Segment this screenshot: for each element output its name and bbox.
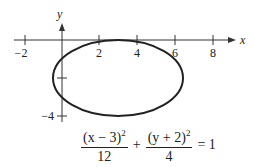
y-axis-label: y <box>56 7 63 21</box>
x-tick-label: 8 <box>210 46 216 60</box>
ellipse-graph: −2 2 4 6 8 −4 x y (x − 3)2 12 + (y + 2)2… <box>0 0 254 167</box>
x-axis-arrow-icon <box>228 37 236 43</box>
fraction-x: (x − 3)2 12 <box>81 125 128 165</box>
y-axis-arrow-icon <box>59 23 65 31</box>
x-tick-label: 4 <box>134 46 140 60</box>
fraction-y: (y + 2)2 4 <box>146 125 193 165</box>
x-tick-label: −2 <box>15 46 28 60</box>
ellipse-curve <box>53 40 183 116</box>
x-tick-label: 2 <box>96 46 102 60</box>
plus-sign: + <box>133 137 141 153</box>
ellipse-equation: (x − 3)2 12 + (y + 2)2 4 = 1 <box>78 125 218 165</box>
y-tick-label: −4 <box>41 109 54 123</box>
x-axis-label: x <box>239 33 246 47</box>
equals-one: = 1 <box>197 137 215 153</box>
